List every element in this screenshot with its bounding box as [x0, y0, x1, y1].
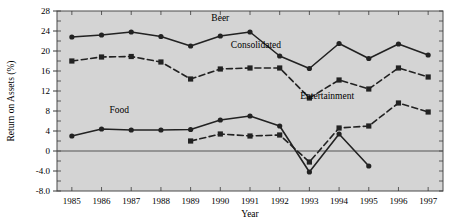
x-axis-tick-label: 1994 — [330, 196, 349, 206]
x-axis-tick-label: 1992 — [271, 196, 289, 206]
y-axis-title: Return on Assets (%) — [6, 60, 17, 141]
data-point-beer — [426, 52, 431, 57]
data-point-food — [158, 127, 163, 132]
data-point-beer — [307, 66, 312, 71]
x-axis-tick-label: 1989 — [182, 196, 201, 206]
y-axis-tick-label: 16 — [41, 66, 51, 76]
data-point-consolidated — [336, 77, 341, 82]
data-point-beer — [99, 32, 104, 37]
x-axis-tick-label: 1996 — [389, 196, 408, 206]
data-point-food — [69, 133, 74, 138]
data-point-consolidated — [396, 65, 401, 70]
data-point-beer — [277, 53, 282, 58]
x-axis-tick-label: 1990 — [211, 196, 230, 206]
x-axis-tick-label: 1988 — [152, 196, 171, 206]
data-point-food — [336, 131, 341, 136]
data-point-food — [366, 163, 371, 168]
x-axis-tick-label: 1985 — [63, 196, 82, 206]
y-axis-tick-label: 0 — [46, 146, 51, 156]
y-axis-tick-label: 24 — [41, 26, 51, 36]
y-axis-tick-label: 28 — [41, 6, 51, 16]
data-point-beer — [69, 34, 74, 39]
y-axis-tick-label: 8 — [46, 106, 51, 116]
data-point-food — [307, 169, 312, 174]
data-point-entertainment — [307, 159, 312, 164]
data-point-beer — [396, 41, 401, 46]
data-point-consolidated — [426, 74, 431, 79]
y-axis-tick-label: 4 — [46, 126, 51, 136]
data-point-consolidated — [69, 58, 74, 63]
data-point-food — [188, 127, 193, 132]
data-point-entertainment — [426, 109, 431, 114]
data-point-consolidated — [188, 76, 193, 81]
y-axis-tick-label: -8.0 — [36, 186, 51, 196]
x-axis-tick-label: 1986 — [93, 196, 112, 206]
data-point-consolidated — [158, 59, 163, 64]
data-point-consolidated — [218, 66, 223, 71]
data-point-entertainment — [247, 133, 252, 138]
series-label-entertainment: Entertainment — [300, 91, 354, 101]
x-axis-tick-label: 1987 — [122, 196, 141, 206]
data-point-beer — [336, 41, 341, 46]
x-axis-title: Year — [241, 209, 259, 218]
data-point-beer — [218, 33, 223, 38]
y-axis-tick-label: 20 — [41, 46, 51, 56]
data-point-entertainment — [366, 123, 371, 128]
data-point-entertainment — [396, 100, 401, 105]
data-point-entertainment — [277, 132, 282, 137]
data-point-entertainment — [218, 131, 223, 136]
chart-container: 2824201612840-4.0-8.01985198619871988198… — [0, 0, 453, 218]
data-point-consolidated — [277, 65, 282, 70]
y-axis-tick-label: -4.0 — [36, 166, 51, 176]
x-axis-tick-label: 1993 — [300, 196, 319, 206]
data-point-food — [247, 113, 252, 118]
plot-area-background — [57, 11, 443, 191]
data-point-beer — [188, 43, 193, 48]
x-axis-tick-label: 1997 — [419, 196, 438, 206]
data-point-consolidated — [129, 54, 134, 59]
series-label-consolidated: Consolidated — [231, 40, 281, 50]
x-axis-tick-label: 1991 — [241, 196, 259, 206]
series-label-beer: Beer — [211, 13, 230, 23]
data-point-consolidated — [247, 65, 252, 70]
data-point-beer — [247, 29, 252, 34]
data-point-food — [277, 123, 282, 128]
data-point-food — [218, 117, 223, 122]
data-point-consolidated — [366, 86, 371, 91]
data-point-beer — [366, 56, 371, 61]
x-axis-tick-label: 1995 — [360, 196, 379, 206]
y-axis-tick-label: 12 — [41, 86, 50, 96]
data-point-beer — [129, 29, 134, 34]
series-label-food: Food — [110, 105, 130, 115]
data-point-food — [129, 127, 134, 132]
data-point-consolidated — [99, 54, 104, 59]
data-point-beer — [158, 34, 163, 39]
roa-line-chart: 2824201612840-4.0-8.01985198619871988198… — [0, 0, 453, 218]
data-point-food — [99, 126, 104, 131]
data-point-entertainment — [188, 138, 193, 143]
data-point-entertainment — [336, 125, 341, 130]
